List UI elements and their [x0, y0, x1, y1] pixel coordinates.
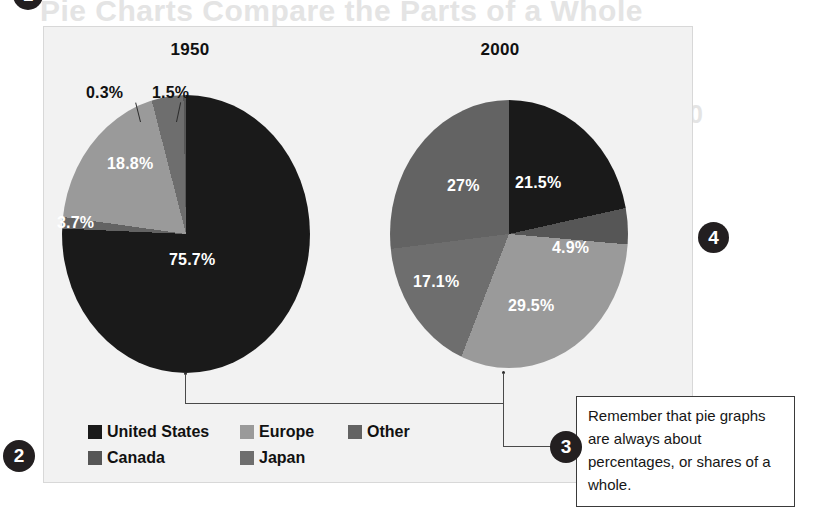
pie-chart-2000 [390, 100, 628, 368]
connector-left-horizontal [185, 403, 503, 404]
callout-marker-1[interactable]: 1 [13, 0, 43, 10]
connector-right-vertical-upper [503, 373, 504, 404]
slice-label-1950-other: 1.5% [152, 84, 189, 102]
legend-swatch-united-states [88, 425, 102, 439]
legend-swatch-japan [240, 451, 254, 465]
legend-swatch-other [348, 425, 362, 439]
pie-title-2000: 2000 [440, 40, 560, 60]
slice-label-2000-europe: 29.5% [508, 297, 554, 315]
slice-label-2000-united-states: 21.5% [515, 174, 561, 192]
legend-item-japan[interactable]: Japan [240, 449, 348, 467]
legend-item-other[interactable]: Other [348, 423, 410, 441]
pie-title-1950: 1950 [130, 40, 250, 60]
legend-item-europe[interactable]: Europe [240, 423, 348, 441]
callout-marker-4[interactable]: 4 [698, 222, 729, 253]
legend-swatch-canada [88, 451, 102, 465]
slice-label-2000-other: 27% [447, 177, 480, 195]
connector-left-vertical [185, 374, 186, 404]
slice-label-1950-united-states: 75.7% [169, 251, 215, 269]
legend-item-canada[interactable]: Canada [88, 449, 240, 467]
legend-label-other: Other [367, 423, 410, 441]
legend-swatch-europe [240, 425, 254, 439]
slice-label-1950-japan: 3.7% [57, 214, 94, 232]
tip-callout-box: Remember that pie graphs are always abou… [576, 396, 795, 507]
pie-chart-1950 [62, 95, 310, 373]
slice-label-1950-europe: 18.8% [107, 155, 153, 173]
tip-callout-text: Remember that pie graphs are always abou… [588, 404, 785, 496]
legend-row: United States Europe Other [88, 419, 418, 445]
legend-label-japan: Japan [259, 449, 305, 467]
callout-marker-2[interactable]: 2 [3, 440, 35, 472]
slice-label-1950-canada: 0.3% [86, 84, 123, 102]
legend-row: Canada Japan [88, 445, 418, 471]
legend-label-europe: Europe [259, 423, 314, 441]
slice-label-2000-japan: 17.1% [413, 273, 459, 291]
legend-label-canada: Canada [107, 449, 165, 467]
connector-right-vertical-lower [503, 403, 504, 447]
legend-label-united-states: United States [107, 423, 209, 441]
legend-item-united-states[interactable]: United States [88, 423, 240, 441]
ghost-text-top: Pie Charts Compare the Parts of a Whole [40, 0, 643, 28]
callout-marker-3[interactable]: 3 [550, 431, 582, 463]
legend: United States Europe Other Canada Japan [88, 419, 418, 471]
slice-label-2000-canada: 4.9% [552, 239, 589, 257]
